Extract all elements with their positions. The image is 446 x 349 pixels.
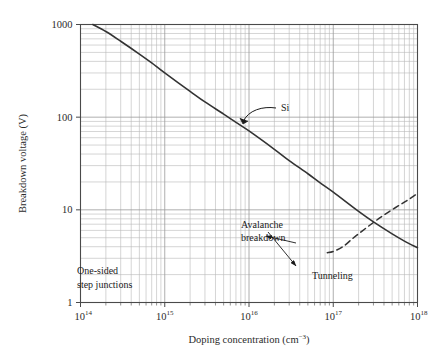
y-tick-label: 1 <box>67 297 72 308</box>
y-axis-title: Breakdown voltage (V) <box>17 113 29 213</box>
annotation-tunneling-label: Tunneling <box>312 270 353 281</box>
chart-canvas: SiAvalanchebreakdownTunnelingOne-sidedst… <box>0 0 446 349</box>
annotation-onesided-line1: One-sided <box>77 265 118 276</box>
annotation-si-label: Si <box>281 102 290 113</box>
y-tick-label: 10 <box>62 204 73 215</box>
annotation-avalanche-line2: breakdown <box>241 232 285 243</box>
y-tick-label: 1000 <box>52 19 73 30</box>
x-axis-title: Doping concentration (cm−3) <box>188 333 310 347</box>
annotation-avalanche-line1: Avalanche <box>241 219 284 230</box>
annotation-onesided-line2: step junctions <box>77 279 132 290</box>
breakdown-voltage-chart: SiAvalanchebreakdownTunnelingOne-sidedst… <box>0 0 446 349</box>
y-tick-label: 100 <box>57 112 73 123</box>
